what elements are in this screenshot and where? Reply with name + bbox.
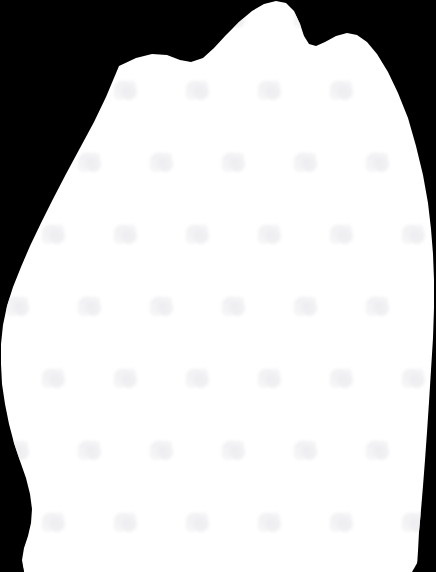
mask-canvas: White organic blob silhouette on black b… bbox=[0, 0, 436, 572]
silhouette-svg bbox=[0, 0, 436, 572]
